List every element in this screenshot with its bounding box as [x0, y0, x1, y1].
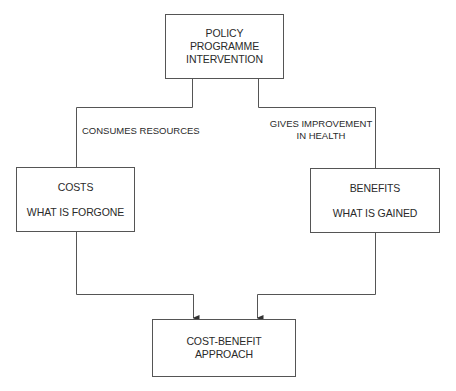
policy-intervention-box: POLICY PROGRAMME INTERVENTION: [165, 14, 284, 79]
costs-box: COSTS WHAT IS FORGONE: [16, 167, 135, 232]
cost-benefit-approach-box: COST-BENEFIT APPROACH: [152, 319, 296, 377]
programme-line: PROGRAMME: [190, 40, 259, 53]
gives-improvement-label: GIVES IMPROVEMENT IN HEALTH: [268, 118, 374, 142]
consumes-resources-label: CONSUMES RESOURCES: [82, 125, 200, 137]
benefits-title: BENEFITS: [350, 182, 401, 195]
benefits-box: BENEFITS WHAT IS GAINED: [310, 168, 440, 233]
costs-subtitle: WHAT IS FORGONE: [27, 206, 124, 219]
gives-improvement-line-2: IN HEALTH: [268, 130, 374, 142]
approach-line: APPROACH: [195, 348, 253, 361]
policy-line: POLICY: [206, 27, 244, 40]
gives-improvement-line-1: GIVES IMPROVEMENT: [268, 118, 374, 130]
costs-title: COSTS: [58, 181, 94, 194]
arrow-benefits-to-result: [258, 232, 376, 318]
arrow-costs-to-result: [77, 231, 194, 318]
cost-benefit-line: COST-BENEFIT: [186, 335, 261, 348]
connector-top-to-costs: [77, 78, 193, 167]
intervention-line: INTERVENTION: [186, 53, 263, 66]
benefits-subtitle: WHAT IS GAINED: [333, 207, 418, 220]
